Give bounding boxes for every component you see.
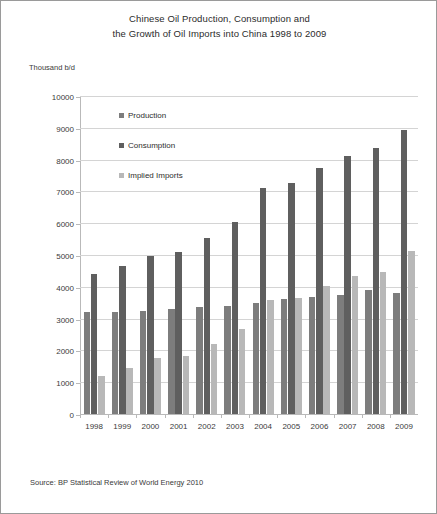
x-axis-tick-label: 2002 [198,422,216,431]
bar-production[interactable] [281,299,288,414]
bar-group: 2005 [277,96,305,414]
y-axis-tick-label: 7000 [56,188,74,197]
x-axis-tick-label: 2000 [142,422,160,431]
legend-swatch-icon [119,143,124,148]
bar-group: 2002 [193,96,221,414]
x-axis-tick-mark [362,414,363,418]
bar-consumption[interactable] [344,156,351,414]
x-axis-tick-label: 2009 [395,422,413,431]
legend-label: Implied Imports [128,171,183,180]
bar-consumption[interactable] [175,252,182,414]
bar-production[interactable] [224,306,231,414]
bar-group: 1998 [80,96,108,414]
chart-legend: ProductionConsumptionImplied Imports [119,100,183,190]
x-axis-tick-mark [80,414,81,418]
bar-group: 2004 [249,96,277,414]
y-axis-tick-label: 9000 [56,124,74,133]
x-axis-tick-label: 1999 [113,422,131,431]
legend-swatch-icon [119,113,124,118]
bar-group: 2009 [390,96,418,414]
bar-consumption[interactable] [373,148,380,414]
chart-figure: Chinese Oil Production, Consumption and … [0,0,437,514]
bar-implied-imports[interactable] [295,298,302,414]
bar-implied-imports[interactable] [408,251,415,414]
x-axis-tick-label: 2004 [254,422,272,431]
bar-implied-imports[interactable] [267,300,274,414]
x-axis-tick-label: 2001 [170,422,188,431]
y-axis-tick-label: 0 [70,411,74,420]
bar-implied-imports[interactable] [154,358,161,414]
bar-production[interactable] [196,307,203,414]
y-axis-tick-label: 2000 [56,347,74,356]
x-axis-tick-mark [390,414,391,418]
bar-production[interactable] [253,303,260,414]
chart-title-line-2: the Growth of Oil Imports into China 199… [1,26,437,41]
y-axis-tick-label: 3000 [56,315,74,324]
bar-implied-imports[interactable] [98,376,105,414]
bar-implied-imports[interactable] [211,344,218,414]
y-axis-tick-label: 5000 [56,252,74,261]
bar-production[interactable] [365,290,372,414]
x-axis-tick-mark [136,414,137,418]
x-axis-tick-mark [305,414,306,418]
bar-implied-imports[interactable] [183,356,190,414]
bar-group: 2006 [305,96,333,414]
y-axis-tick-label: 6000 [56,220,74,229]
bar-group: 2007 [334,96,362,414]
bar-implied-imports[interactable] [239,329,246,414]
x-axis-tick-mark [277,414,278,418]
bar-consumption[interactable] [91,274,98,414]
legend-label: Consumption [128,141,175,150]
bar-production[interactable] [140,311,147,414]
x-axis-tick-mark [108,414,109,418]
bar-production[interactable] [309,297,316,414]
x-axis-tick-label: 1998 [85,422,103,431]
bar-consumption[interactable] [316,168,323,414]
bar-consumption[interactable] [260,188,267,414]
x-axis-tick-mark [165,414,166,418]
chart-title-line-1: Chinese Oil Production, Consumption and [1,11,437,26]
bar-consumption[interactable] [147,256,154,414]
x-axis-tick-label: 2008 [367,422,385,431]
legend-label: Production [128,111,166,120]
bar-consumption[interactable] [232,222,239,414]
bar-group: 2008 [362,96,390,414]
legend-item-consumption[interactable]: Consumption [119,130,183,160]
bar-consumption[interactable] [204,238,211,414]
bar-implied-imports[interactable] [126,368,133,414]
y-axis-tick-label: 10000 [52,93,74,102]
y-axis-tick-label: 8000 [56,156,74,165]
x-axis-tick-label: 2005 [282,422,300,431]
chart-title: Chinese Oil Production, Consumption and … [1,11,437,41]
x-axis-tick-mark [249,414,250,418]
x-axis-tick-label: 2006 [311,422,329,431]
legend-item-production[interactable]: Production [119,100,183,130]
y-axis-unit-label: Thousand b/d [29,63,75,72]
bar-consumption[interactable] [288,183,295,415]
bar-production[interactable] [112,312,119,414]
bar-production[interactable] [168,309,175,414]
bar-implied-imports[interactable] [380,272,387,414]
legend-swatch-icon [119,173,124,178]
bar-group: 2003 [221,96,249,414]
bar-production[interactable] [337,295,344,414]
bar-production[interactable] [84,312,91,414]
x-axis-tick-mark [334,414,335,418]
bar-implied-imports[interactable] [323,286,330,414]
x-axis-tick-label: 2003 [226,422,244,431]
legend-item-imports[interactable]: Implied Imports [119,160,183,190]
bar-consumption[interactable] [401,130,408,414]
bar-production[interactable] [393,293,400,414]
x-axis-tick-mark [193,414,194,418]
x-axis-tick-mark [221,414,222,418]
y-axis-tick-label: 4000 [56,283,74,292]
bar-consumption[interactable] [119,266,126,414]
bar-implied-imports[interactable] [352,276,359,414]
source-note: Source: BP Statistical Review of World E… [30,478,203,487]
x-axis-tick-label: 2007 [339,422,357,431]
y-axis-tick-label: 1000 [56,379,74,388]
